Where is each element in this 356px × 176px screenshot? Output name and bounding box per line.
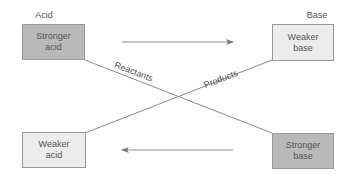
weaker-acid-box: Weaker acid [22,132,86,168]
stronger-base-box: Stronger base [272,133,334,169]
stronger-acid-box: Stronger acid [22,24,85,60]
weaker-base-box: Weaker base [272,24,334,61]
